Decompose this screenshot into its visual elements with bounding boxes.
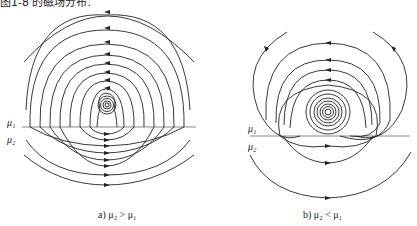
label-mu1-a: μ₁: [7, 117, 16, 128]
field-lines-diagram: [0, 0, 417, 226]
figure-b: [250, 32, 411, 198]
caption-a: a) μ₂ > μ₁: [98, 209, 137, 220]
caption-b: b) μ₂ < μ₁: [303, 209, 342, 220]
label-mu2-a: μ₂: [7, 134, 16, 145]
label-mu1-b: μ₁: [248, 123, 257, 134]
label-mu2-b: μ₂: [248, 141, 257, 152]
figure-a: [22, 15, 196, 185]
